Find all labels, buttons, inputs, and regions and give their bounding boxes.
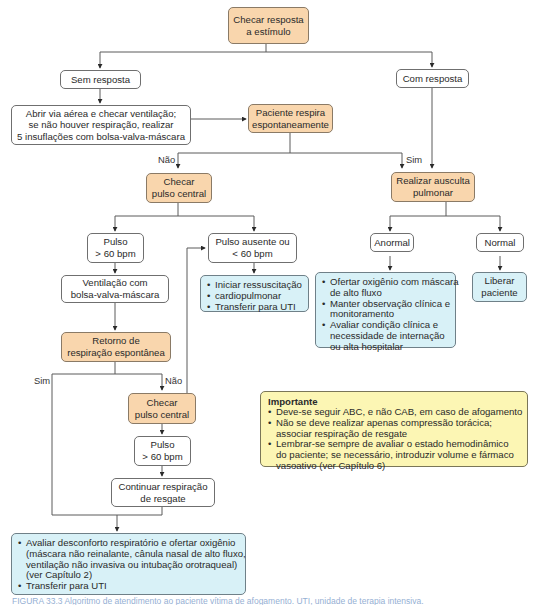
- pulse-over-60-box-2: Pulso > 60 bpm: [134, 436, 191, 466]
- list-item: cardiopulmonar: [207, 291, 302, 302]
- node-text: Abrir via aérea e checar ventilação;: [26, 108, 176, 120]
- edge-label-no: Não: [165, 375, 182, 386]
- list-item: Transferir para UTI: [18, 581, 246, 592]
- pulse-over-60-box: Pulso > 60 bpm: [87, 233, 144, 263]
- figure-caption: FIGURA 33.3 Algoritmo de atendimento ao …: [12, 596, 424, 605]
- cpr-action-box: Iniciar ressuscitação cardiopulmonar Tra…: [200, 275, 309, 312]
- node-text: espontaneamente: [252, 119, 329, 131]
- check-response-box: Checar resposta a estímulo: [228, 7, 309, 44]
- check-pulse-box-2: Checar pulso central: [128, 393, 196, 424]
- continue-rescue-breathing-box: Continuar respiração de resgate: [111, 478, 215, 507]
- node-text: Paciente respira: [256, 107, 325, 119]
- node-text: pulso central: [152, 188, 206, 200]
- node-text: pulso central: [135, 409, 189, 421]
- node-text: pulmonar: [413, 187, 453, 199]
- node-text: se não houver respiração, realizar: [28, 119, 173, 131]
- note-item-continuation: vasoativo (ver Capítulo 6): [268, 461, 522, 472]
- node-text: Liberar: [485, 275, 515, 287]
- check-pulse-box: Checar pulso central: [146, 173, 212, 203]
- node-text: Checar: [164, 176, 195, 188]
- list-item-continuation: cardiopulmonar: [215, 290, 281, 301]
- auscultation-box: Realizar ausculta pulmonar: [391, 172, 475, 202]
- action-list: Iniciar ressuscitação cardiopulmonar Tra…: [207, 280, 302, 312]
- spontaneous-breathing-box: Paciente respira espontaneamente: [248, 104, 333, 133]
- node-text: > 60 bpm: [95, 248, 135, 260]
- release-patient-box: Liberar paciente: [472, 272, 527, 302]
- node-text: paciente: [481, 287, 517, 299]
- edge-label-yes: Sim: [406, 154, 422, 165]
- bag-valve-ventilation-box: Ventilação com bolsa-valva-máscara: [61, 275, 169, 303]
- node-text: Checar resposta: [233, 14, 303, 26]
- list-item: Transferir para UTI: [207, 302, 302, 313]
- node-text: Com resposta: [403, 73, 463, 85]
- node-text: Continuar respiração: [118, 481, 207, 493]
- pulse-absent-box: Pulso ausente ou < 60 bpm: [208, 233, 297, 263]
- list-item-continuation: (máscara não reinalante, cânula nasal de…: [18, 549, 246, 560]
- node-text: bolsa-valva-máscara: [71, 289, 160, 301]
- with-response-box: Com resposta: [396, 69, 469, 88]
- node-text: Pulso: [151, 439, 175, 451]
- node-text: Retorno de: [92, 335, 139, 347]
- node-text: Pulso: [104, 236, 128, 248]
- oxygen-action-box: Ofertar oxigênio com máscara de alto flu…: [315, 272, 456, 348]
- list-item-continuation: ou alta hospitalar: [322, 342, 459, 353]
- node-text: a estímulo: [246, 26, 290, 38]
- note-item: Não se deve realizar apenas compressão t…: [268, 418, 522, 429]
- node-text: < 60 bpm: [232, 248, 272, 260]
- assess-respiratory-distress-box: Avaliar desconforto respiratório e ofert…: [11, 533, 246, 595]
- node-text: > 60 bpm: [142, 451, 182, 463]
- node-text: Pulso ausente ou: [215, 236, 289, 248]
- edge-label-no: Não: [158, 154, 175, 165]
- node-text: Realizar ausculta: [396, 175, 470, 187]
- node-text: Ventilação com: [82, 277, 147, 289]
- normal-box: Normal: [476, 233, 524, 252]
- return-breathing-box: Retorno de respiração espontânea: [61, 332, 171, 362]
- node-text: de resgate: [140, 493, 185, 505]
- abnormal-box: Anormal: [370, 233, 414, 252]
- node-text: respiração espontânea: [67, 347, 165, 359]
- no-response-box: Sem resposta: [60, 70, 141, 89]
- action-list: Avaliar desconforto respiratório e ofert…: [18, 538, 246, 592]
- open-airway-box: Abrir via aérea e checar ventilação; se …: [11, 105, 191, 145]
- action-list: Ofertar oxigênio com máscara de alto flu…: [322, 277, 459, 353]
- node-text: Normal: [485, 237, 516, 249]
- list-item-continuation: de alto fluxo: [322, 288, 459, 299]
- important-note-box: Importante Deve-se seguir ABC, e não CAB…: [260, 391, 528, 467]
- edge-label-yes: Sim: [34, 375, 50, 386]
- node-text: 5 insuflações com bolsa-valva-máscara: [17, 131, 185, 143]
- node-text: Checar: [147, 397, 178, 409]
- node-text: Anormal: [374, 237, 410, 249]
- node-text: Sem resposta: [71, 74, 130, 86]
- note-list: Deve-se seguir ABC, e não CAB, em caso d…: [268, 407, 522, 472]
